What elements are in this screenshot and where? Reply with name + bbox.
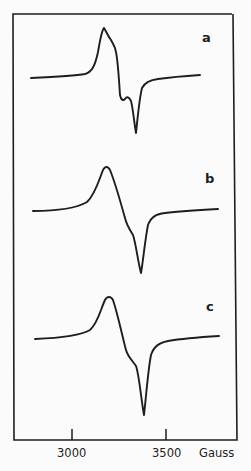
epr-spectra-figure: a b c 3000 3500 Gauss [0, 0, 251, 471]
axis-unit-label: Gauss [199, 446, 234, 460]
spectrum-a-curve [31, 28, 200, 133]
tick-label-3000: 3000 [57, 446, 86, 460]
panel-label-a: a [202, 30, 211, 45]
plot-area [0, 0, 251, 471]
spectrum-b-curve [33, 167, 218, 273]
panel-label-b: b [205, 171, 214, 186]
spectrum-c-curve [35, 297, 219, 415]
tick-label-3500: 3500 [152, 446, 181, 460]
panel-label-c: c [206, 299, 214, 314]
